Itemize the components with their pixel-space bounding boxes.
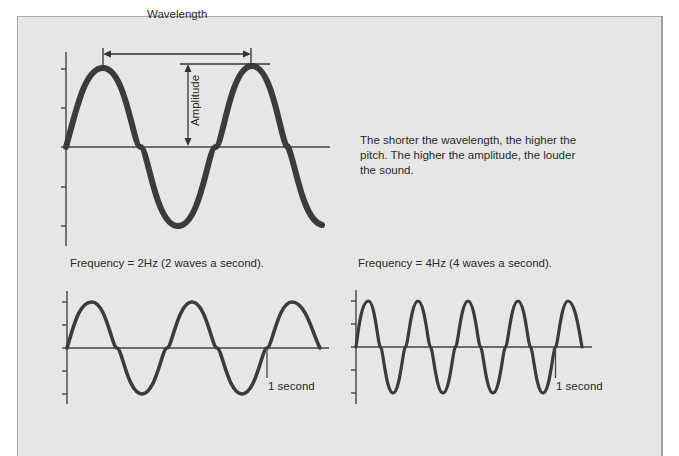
frequency-4hz-label: Frequency = 4Hz (4 waves a second). [358, 256, 552, 271]
frequency-2hz-label: Frequency = 2Hz (2 waves a second). [70, 256, 264, 271]
wave-caption: The shorter the wavelength, the higher t… [360, 133, 580, 178]
one-second-label-4hz: 1 second [556, 379, 603, 394]
wavelength-label: Wavelength [147, 7, 207, 22]
one-second-label-2hz: 1 second [268, 379, 315, 394]
wavelength-arrow [103, 48, 251, 68]
amplitude-label: Amplitude [188, 75, 203, 126]
